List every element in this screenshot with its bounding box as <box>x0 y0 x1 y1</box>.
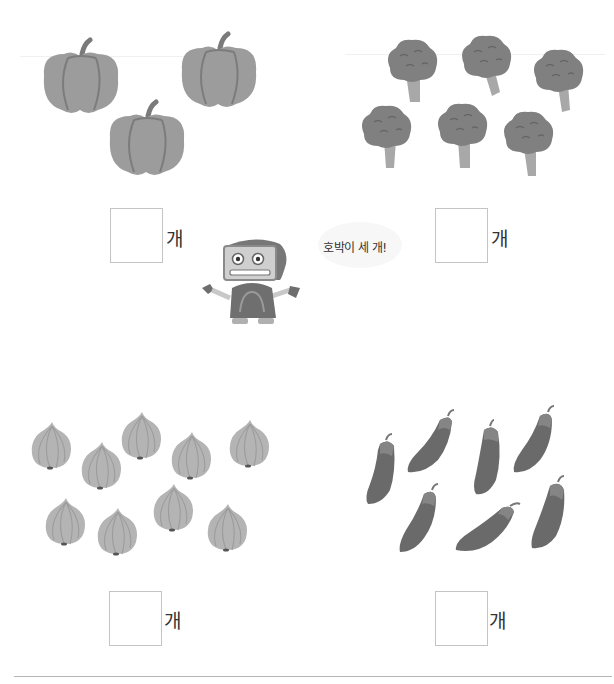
onion-icon <box>94 506 140 558</box>
eggplant-icon <box>404 408 460 478</box>
onion-icon <box>28 420 74 472</box>
answer-box-eggplant[interactable] <box>435 591 488 646</box>
unit-label-eggplant: 개 <box>489 606 506 633</box>
onion-icon <box>150 482 196 534</box>
answer-box-onion[interactable] <box>109 591 162 646</box>
broccoli-icon <box>458 34 514 102</box>
broccoli-icon <box>358 104 414 172</box>
speech-bubble-text: 호박이 세 개! <box>323 238 386 255</box>
eggplant-icon <box>510 404 560 478</box>
eggplant-icon <box>528 474 570 554</box>
onion-icon <box>226 418 272 470</box>
unit-label-onion: 개 <box>164 606 181 633</box>
eggplant-icon <box>470 418 506 498</box>
onion-icon <box>42 496 88 548</box>
robot-icon <box>196 236 306 328</box>
onion-icon <box>118 410 164 462</box>
broccoli-icon <box>530 48 586 116</box>
broccoli-icon <box>384 38 440 106</box>
answer-box-pumpkin[interactable] <box>110 208 163 263</box>
onion-icon <box>168 430 214 482</box>
answer-box-broccoli[interactable] <box>435 208 488 263</box>
pumpkin-icon <box>104 98 188 178</box>
bottom-divider <box>14 676 612 677</box>
broccoli-icon <box>500 110 556 178</box>
onion-icon <box>204 502 250 554</box>
unit-label-pumpkin: 개 <box>166 224 183 251</box>
pumpkin-icon <box>176 30 260 110</box>
eggplant-icon <box>452 498 524 556</box>
eggplant-icon <box>364 432 400 508</box>
eggplant-icon <box>396 482 446 556</box>
broccoli-icon <box>434 102 490 170</box>
unit-label-broccoli: 개 <box>491 224 508 251</box>
